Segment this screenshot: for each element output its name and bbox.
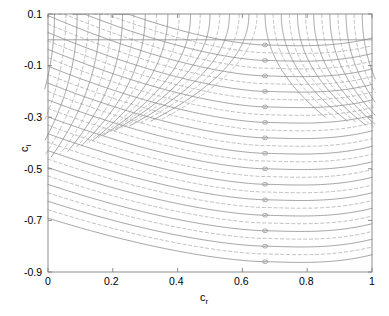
x-tick-label-3: 0.6 xyxy=(234,275,249,287)
x-tick-label-5: 1 xyxy=(369,275,375,287)
y-tick-label-1: -0.1 xyxy=(2,59,42,71)
contour-layer xyxy=(45,14,375,263)
y-axis-title: ci xyxy=(18,145,33,152)
y-tick-label-3: -0.5 xyxy=(2,163,42,175)
x-tick-label-4: 0.8 xyxy=(299,275,314,287)
x-tick-label-1: 0.2 xyxy=(104,275,119,287)
figure-root: 0.1 -0.1 -0.3 -0.5 -0.7 -0.9 0 0.2 0.4 0… xyxy=(0,0,389,316)
y-axis-title-main: c xyxy=(18,147,30,153)
y-tick-label-5: -0.9 xyxy=(2,266,42,278)
x-tick-label-0: 0 xyxy=(45,275,51,287)
x-tick-label-2: 0.4 xyxy=(169,275,184,287)
y-axis-title-sub: i xyxy=(24,145,33,147)
contour-plot-canvas xyxy=(0,0,389,316)
y-tick-label-4: -0.7 xyxy=(2,214,42,226)
y-tick-label-2: -0.3 xyxy=(2,111,42,123)
y-tick-label-0: 0.1 xyxy=(8,8,42,20)
x-axis-title: cr xyxy=(200,291,208,306)
x-axis-title-sub: r xyxy=(206,297,209,306)
